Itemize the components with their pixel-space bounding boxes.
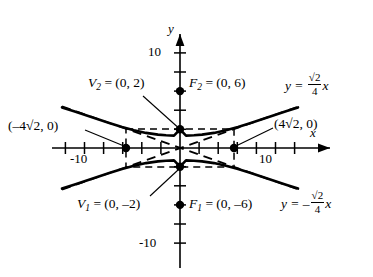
label-vertex-upper: V2 = (0, 2): [88, 76, 145, 92]
point-corner-left: [122, 144, 130, 152]
asymptote-negative-numerator: √2: [311, 190, 325, 203]
label-focus-lower: F1 = (0, –6): [189, 197, 252, 213]
label-vertex-upper-value: = (0, 2): [101, 75, 145, 90]
label-focus-upper-letter: F: [189, 75, 197, 90]
label-focus-lower-value: = (0, –6): [202, 196, 252, 211]
label-focus-lower-letter: F: [189, 196, 197, 211]
asymptote-negative-rhs: x: [325, 196, 331, 211]
label-focus-upper-value: = (0, 6): [202, 75, 246, 90]
point-vertex-lower: [176, 163, 184, 171]
asymptote-positive-lhs: y =: [285, 78, 307, 93]
point-vertex-upper: [176, 125, 184, 133]
label-vertex-lower-letter: V: [77, 196, 85, 211]
label-focus-upper: F2 = (0, 6): [189, 76, 246, 92]
asymptote-negative-denominator: 4: [311, 203, 325, 215]
y-tick-label-negative: -10: [139, 236, 156, 249]
asymptote-negative-fraction: √24: [311, 190, 325, 215]
point-focus-upper: [176, 87, 184, 95]
leader-line-vertex-upper: [143, 96, 177, 127]
x-tick-label-positive: 10: [259, 152, 272, 165]
label-vertex-lower-value: = (0, –2): [90, 196, 140, 211]
label-corner-left: (–4√2, 0): [8, 119, 58, 133]
label-corner-right: (4√2, 0): [274, 117, 317, 131]
y-axis-label: y: [168, 22, 174, 35]
hyperbola-figure: y x 10 -10 -10 10 V2 = (0, 2) F2 = (0, 6…: [0, 0, 373, 277]
asymptote-positive-denominator: 4: [308, 85, 322, 97]
point-corner-right: [230, 144, 238, 152]
asymptote-positive-numerator: √2: [308, 72, 322, 85]
asymptote-negative-lhs: y = –: [281, 196, 310, 211]
y-tick-label-positive: 10: [148, 45, 161, 58]
x-axis-arrow: [318, 144, 330, 153]
leader-line-vertex-lower: [150, 170, 178, 196]
y-axis-arrow: [176, 34, 185, 46]
point-focus-lower: [176, 201, 184, 209]
label-asymptote-positive: y = √24x: [285, 72, 328, 97]
leader-line-corner-left: [85, 130, 124, 146]
asymptote-positive-fraction: √24: [308, 72, 322, 97]
asymptote-positive-rhs: x: [322, 78, 328, 93]
plot-area: [0, 0, 373, 277]
label-vertex-lower: V1 = (0, –2): [77, 197, 140, 213]
label-asymptote-negative: y = –√24x: [281, 190, 331, 215]
x-tick-label-negative: -10: [70, 152, 87, 165]
label-vertex-upper-letter: V: [88, 75, 96, 90]
leader-line-corner-right: [236, 128, 273, 146]
